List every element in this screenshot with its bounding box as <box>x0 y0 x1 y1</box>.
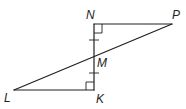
label-l: L <box>4 91 11 105</box>
geometry-diagram: N P M K L <box>0 0 186 109</box>
right-angle-mark-k <box>86 82 94 90</box>
right-angle-mark-n <box>94 24 102 33</box>
label-n: N <box>86 8 95 22</box>
segment-lp <box>14 24 172 90</box>
label-m: M <box>97 56 107 70</box>
label-k: K <box>96 92 105 106</box>
label-p: P <box>172 8 180 22</box>
